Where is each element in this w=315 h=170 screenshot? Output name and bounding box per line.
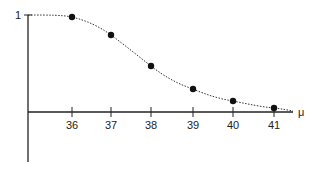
data-points — [69, 14, 277, 111]
x-tick-label: 40 — [227, 119, 239, 131]
fit-curve — [28, 15, 293, 111]
y-tick-label: 1 — [15, 9, 21, 21]
x-tick-label: 37 — [105, 119, 117, 131]
x-tick-label: 38 — [145, 119, 157, 131]
data-point — [108, 32, 114, 38]
x-tick-labels: 36 37 38 39 40 41 — [66, 119, 280, 131]
x-tick-label: 39 — [187, 119, 199, 131]
x-tick-label: 36 — [66, 119, 78, 131]
data-point — [148, 63, 154, 69]
chart: 1 μ 36 37 38 39 40 41 — [0, 0, 315, 170]
x-tick-label: 41 — [268, 119, 280, 131]
data-point — [230, 98, 236, 104]
data-point — [271, 105, 277, 111]
data-point — [69, 14, 75, 20]
x-axis-label: μ — [298, 106, 304, 118]
data-point — [190, 86, 196, 92]
